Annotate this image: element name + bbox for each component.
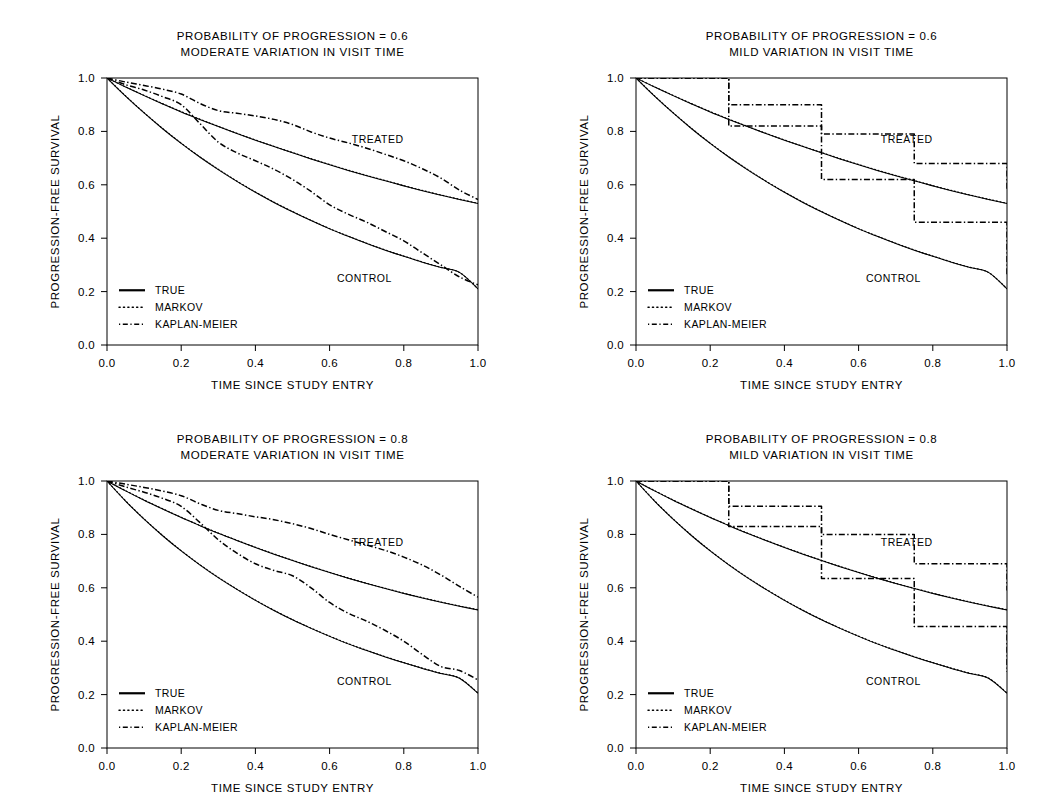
legend: TRUEMARKOVKAPLAN-MEIER <box>648 284 767 330</box>
y-tick-label: 0.8 <box>607 528 624 540</box>
legend: TRUEMARKOVKAPLAN-MEIER <box>648 687 767 733</box>
y-tick-label: 0.6 <box>78 179 95 191</box>
panel-title-line1: PROBABILITY OF PROGRESSION = 0.8 <box>177 433 408 445</box>
legend-label-kaplan_meier: KAPLAN-MEIER <box>155 721 238 733</box>
legend-label-true: TRUE <box>155 687 185 699</box>
y-tick-label: 0.2 <box>607 689 624 701</box>
legend-label-markov: MARKOV <box>155 704 203 716</box>
x-tick-label: 0.8 <box>924 760 941 772</box>
curve-true-treated <box>107 78 478 203</box>
y-tick-label: 1.0 <box>607 72 624 84</box>
curve-markov-control <box>107 78 478 289</box>
y-tick-label: 0.2 <box>607 286 624 298</box>
y-axis-title: PROGRESSION-FREE SURVIVAL <box>578 114 590 308</box>
y-tick-label: 0.6 <box>78 582 95 594</box>
panel-title-line1: PROBABILITY OF PROGRESSION = 0.8 <box>706 433 937 445</box>
curve-group <box>107 78 478 289</box>
y-tick-label: 0.8 <box>607 125 624 137</box>
legend: TRUEMARKOVKAPLAN-MEIER <box>119 284 238 330</box>
annotation-treated: TREATED <box>352 133 404 145</box>
x-tick-label: 1.0 <box>470 760 487 772</box>
legend: TRUEMARKOVKAPLAN-MEIER <box>119 687 238 733</box>
panel-title-line2: MILD VARIATION IN VISIT TIME <box>729 449 914 461</box>
x-tick-label: 0.4 <box>247 760 264 772</box>
y-tick-label: 0.2 <box>78 286 95 298</box>
y-tick-label: 0.6 <box>607 179 624 191</box>
legend-label-markov: MARKOV <box>684 301 732 313</box>
curve-true-control <box>107 481 478 693</box>
annotation-control: CONTROL <box>866 272 921 284</box>
annotation-control: CONTROL <box>337 272 392 284</box>
curve-kaplan-meier-control <box>107 78 478 285</box>
x-tick-label: 0.4 <box>776 760 793 772</box>
x-tick-label: 0.0 <box>628 357 645 369</box>
y-tick-label: 0.0 <box>607 339 624 351</box>
curve-true-control <box>107 78 478 289</box>
y-tick-label: 0.0 <box>78 742 95 754</box>
curve-kaplan-meier-control <box>107 481 478 680</box>
x-tick-label: 0.0 <box>628 760 645 772</box>
x-tick-label: 1.0 <box>999 357 1016 369</box>
annotation-control: CONTROL <box>866 675 921 687</box>
y-axis-title: PROGRESSION-FREE SURVIVAL <box>578 517 590 711</box>
curve-true-control <box>636 481 1007 693</box>
y-axis-title: PROGRESSION-FREE SURVIVAL <box>49 114 61 308</box>
x-axis-title: TIME SINCE STUDY ENTRY <box>211 782 374 794</box>
y-tick-label: 0.6 <box>607 582 624 594</box>
curve-group <box>636 78 1007 289</box>
panel-bottom-left: PROBABILITY OF PROGRESSION = 0.8MODERATE… <box>0 403 529 806</box>
y-tick-label: 0.8 <box>78 125 95 137</box>
x-tick-label: 0.6 <box>850 357 867 369</box>
panel-title-line2: MODERATE VARIATION IN VISIT TIME <box>181 449 405 461</box>
y-tick-label: 0.4 <box>607 232 624 244</box>
x-axis-title: TIME SINCE STUDY ENTRY <box>740 379 903 391</box>
x-axis-title: TIME SINCE STUDY ENTRY <box>740 782 903 794</box>
curve-markov-control <box>636 481 1007 693</box>
curve-markov-control <box>107 481 478 693</box>
x-tick-label: 0.8 <box>924 357 941 369</box>
legend-label-kaplan_meier: KAPLAN-MEIER <box>155 318 238 330</box>
annotation-treated: TREATED <box>881 536 933 548</box>
y-tick-label: 0.4 <box>78 635 95 647</box>
x-tick-label: 0.2 <box>702 760 719 772</box>
figure-root: PROBABILITY OF PROGRESSION = 0.6MODERATE… <box>0 0 1058 806</box>
legend-label-true: TRUE <box>684 687 714 699</box>
x-tick-label: 1.0 <box>999 760 1016 772</box>
curve-markov-treated <box>107 481 478 610</box>
x-tick-label: 0.4 <box>247 357 264 369</box>
y-tick-label: 0.2 <box>78 689 95 701</box>
panel-title-line2: MILD VARIATION IN VISIT TIME <box>729 46 914 58</box>
annotation-control: CONTROL <box>337 675 392 687</box>
curve-true-treated <box>107 481 478 610</box>
x-tick-label: 0.0 <box>99 357 116 369</box>
panel-bottom-right: PROBABILITY OF PROGRESSION = 0.8MILD VAR… <box>529 403 1058 806</box>
panel-top-left: PROBABILITY OF PROGRESSION = 0.6MODERATE… <box>0 0 529 403</box>
legend-label-kaplan_meier: KAPLAN-MEIER <box>684 318 767 330</box>
y-tick-label: 0.4 <box>607 635 624 647</box>
x-tick-label: 0.6 <box>850 760 867 772</box>
x-tick-label: 0.2 <box>173 760 190 772</box>
x-axis-title: TIME SINCE STUDY ENTRY <box>211 379 374 391</box>
annotation-treated: TREATED <box>352 536 404 548</box>
x-tick-label: 0.2 <box>702 357 719 369</box>
y-tick-label: 0.8 <box>78 528 95 540</box>
panel-top-right: PROBABILITY OF PROGRESSION = 0.6MILD VAR… <box>529 0 1058 403</box>
annotation-treated: TREATED <box>881 133 933 145</box>
legend-label-markov: MARKOV <box>684 704 732 716</box>
x-tick-label: 0.2 <box>173 357 190 369</box>
y-tick-label: 0.0 <box>607 742 624 754</box>
legend-label-kaplan_meier: KAPLAN-MEIER <box>684 721 767 733</box>
y-tick-label: 1.0 <box>607 475 624 487</box>
y-tick-label: 0.0 <box>78 339 95 351</box>
y-tick-label: 1.0 <box>78 475 95 487</box>
x-tick-label: 1.0 <box>470 357 487 369</box>
y-tick-label: 1.0 <box>78 72 95 84</box>
x-tick-label: 0.6 <box>321 357 338 369</box>
y-axis-title: PROGRESSION-FREE SURVIVAL <box>49 517 61 711</box>
curve-group <box>636 481 1007 693</box>
y-tick-label: 0.4 <box>78 232 95 244</box>
x-tick-label: 0.6 <box>321 760 338 772</box>
x-tick-label: 0.4 <box>776 357 793 369</box>
x-tick-label: 0.8 <box>395 357 412 369</box>
curve-kaplan-meier-control <box>636 481 1007 672</box>
